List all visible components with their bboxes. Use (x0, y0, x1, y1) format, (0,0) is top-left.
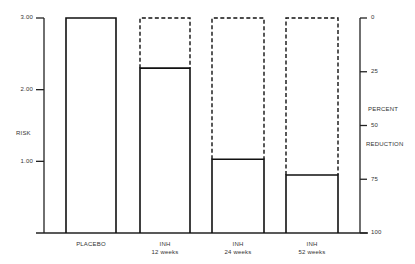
bar-solid (286, 175, 338, 233)
category-label-placebo: PLACEBO (61, 240, 121, 248)
right-tick-100: 100 (371, 229, 382, 235)
right-tick-0: 0 (371, 14, 375, 20)
left-axis-label: RISK (16, 130, 31, 136)
risk-reduction-chart: RISK PERCENT REDUCTION 3.00 2.00 1.00 0 … (0, 0, 415, 264)
right-tick-75: 75 (371, 176, 378, 182)
bar-3 (212, 18, 264, 233)
bar-solid (140, 68, 190, 233)
right-axis-label-percent: PERCENT (368, 106, 398, 112)
left-tick-2: 2.00 (3, 86, 33, 92)
right-tick-25: 25 (371, 68, 378, 74)
left-tick-3: 3.00 (3, 14, 33, 20)
right-tick-50: 50 (371, 122, 378, 128)
category-label-inh-52: INH 52 weeks (282, 240, 342, 256)
bar-solid (212, 159, 264, 233)
bar-placebo-reference-dashed (286, 18, 338, 175)
bar-4 (286, 18, 338, 233)
left-tick-1: 1.00 (3, 158, 33, 164)
bar-1 (66, 18, 116, 233)
bar-placebo-reference-dashed (212, 18, 264, 159)
bar-2 (140, 18, 190, 233)
chart-canvas (0, 0, 415, 264)
bar-placebo-reference-dashed (140, 18, 190, 68)
bar-solid (66, 18, 116, 233)
category-label-inh-12: INH 12 weeks (135, 240, 195, 256)
category-label-inh-24: INH 24 weeks (208, 240, 268, 256)
right-axis-label-reduction: REDUCTION (366, 141, 403, 147)
